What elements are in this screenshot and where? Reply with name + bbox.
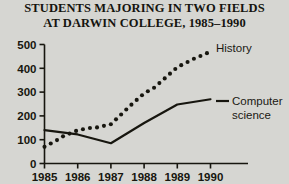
series-point xyxy=(152,86,156,90)
series-computer-science xyxy=(45,99,211,143)
series-point xyxy=(157,81,161,85)
series-point xyxy=(146,89,150,93)
series-point xyxy=(42,145,46,149)
x-axis: 198519861987198819891990 xyxy=(32,164,248,183)
x-axis-tick-label: 1987 xyxy=(98,171,124,183)
series-point xyxy=(129,103,133,107)
series-point xyxy=(119,112,123,116)
y-axis-tick-label: 200 xyxy=(17,110,36,122)
x-axis-tick-label: 1988 xyxy=(131,171,157,183)
chart-figure: STUDENTS MAJORING IN TWO FIELDS AT DARWI… xyxy=(0,0,289,184)
y-axis-tick-label: 100 xyxy=(17,134,36,146)
series-point xyxy=(55,138,59,142)
data-series xyxy=(42,51,210,149)
series-point xyxy=(140,93,144,97)
series-point xyxy=(135,98,139,102)
x-axis-tick-label: 1985 xyxy=(32,171,58,183)
y-axis: 0100200300400500 xyxy=(17,39,44,170)
series-point xyxy=(205,51,209,55)
y-axis-tick-label: 300 xyxy=(17,86,36,98)
series-point xyxy=(74,129,78,133)
series-point xyxy=(49,141,53,145)
series-point xyxy=(124,107,128,111)
y-axis-tick-label: 500 xyxy=(17,39,36,51)
series-point xyxy=(186,60,190,64)
series-point xyxy=(114,117,118,121)
series-point xyxy=(163,76,167,80)
series-point xyxy=(61,134,65,138)
y-axis-tick-label: 400 xyxy=(17,63,36,75)
legend-label-computer-science-2: science xyxy=(232,109,271,121)
series-point xyxy=(168,72,172,76)
chart-plot: 0100200300400500 19851986198719881989199… xyxy=(0,0,289,184)
series-point xyxy=(81,127,85,131)
x-axis-tick-label: 1990 xyxy=(198,171,224,183)
series-point xyxy=(179,63,183,67)
series-point xyxy=(109,122,113,126)
x-axis-tick-label: 1989 xyxy=(165,171,191,183)
y-axis-tick-label: 0 xyxy=(30,158,36,170)
series-point xyxy=(173,67,177,71)
series-point xyxy=(192,57,196,61)
series-point xyxy=(102,124,106,128)
legend-label-history: History xyxy=(216,42,252,54)
series-point xyxy=(198,54,202,58)
x-axis-tick-label: 1986 xyxy=(65,171,91,183)
legend-label-computer-science: Computer xyxy=(232,95,283,107)
series-point xyxy=(95,125,99,129)
chart-legend: HistoryComputerscience xyxy=(216,42,283,121)
series-point xyxy=(88,126,92,130)
